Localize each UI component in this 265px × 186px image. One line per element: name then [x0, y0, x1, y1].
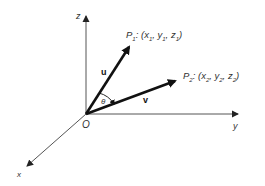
- point-p1-label: P1: (x1, y1, z1): [126, 29, 182, 42]
- y-axis-label: y: [232, 121, 238, 131]
- angle-theta-label: θ: [101, 97, 106, 106]
- vector-v-label: v: [143, 95, 148, 105]
- vector-u-label: u: [101, 67, 107, 77]
- vector-angle-diagram: z y x O u v θ P1: (x1, y1, z1) P2: (x2, …: [0, 0, 265, 186]
- x-axis: [27, 114, 86, 166]
- vector-u: [86, 47, 129, 114]
- point-p2-label: P2: (x2, y2, z2): [183, 70, 239, 83]
- vector-v: [86, 81, 175, 114]
- z-axis-label: z: [75, 11, 81, 21]
- x-axis-label: x: [16, 170, 22, 179]
- origin-label: O: [82, 119, 90, 130]
